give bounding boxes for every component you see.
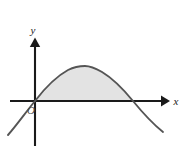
y-axis-label: y: [30, 24, 36, 36]
area-under-curve-figure: y x O: [0, 0, 191, 146]
origin-label: O: [27, 104, 35, 116]
x-axis-label: x: [173, 95, 179, 107]
figure-container: y x O: [0, 0, 191, 146]
